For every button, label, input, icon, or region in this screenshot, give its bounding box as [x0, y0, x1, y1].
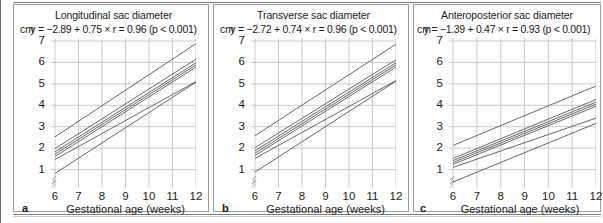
panel-c-ytick-4: 4: [427, 98, 443, 110]
panel-a-svg: [51, 38, 196, 188]
panel-a: Longitudinal sac diameter cm y = −2.89 +…: [13, 4, 214, 214]
panel-a-plot-area: [51, 38, 196, 188]
panel-b-xtick-10: 10: [341, 190, 357, 202]
panel-c-plot-area: [449, 38, 596, 188]
panel-c-ytick-7: 7: [427, 34, 443, 46]
panel-a-xtick-6: 6: [47, 190, 63, 202]
figure-left-edge-rule: [0, 0, 1, 223]
panel-a-ytick-7: 7: [29, 34, 45, 46]
panel-a-xtick-7: 7: [71, 190, 87, 202]
panel-a-xtick-12: 12: [188, 190, 204, 202]
panel-c-ytick-2: 2: [427, 141, 443, 153]
panel-c-xtick-11: 11: [564, 190, 580, 202]
panel-b-xtick-12: 12: [388, 190, 404, 202]
panel-b-xaxis-title: Gestational age (weeks): [237, 203, 414, 215]
panel-b-title: Transverse sac diameter: [213, 9, 414, 21]
panel-c-xtick-10: 10: [540, 190, 556, 202]
panel-a-ytick-1: 1: [29, 163, 45, 175]
panel-c-xtick-12: 12: [588, 190, 603, 202]
panel-b-xtick-8: 8: [294, 190, 310, 202]
panel-c-xtick-7: 7: [469, 190, 485, 202]
panel-b-letter: b: [222, 202, 229, 214]
panel-b-ytick-4: 4: [229, 98, 245, 110]
panel-c-xaxis-title: Gestational age (weeks): [435, 203, 603, 215]
panel-c-svg: [449, 38, 596, 188]
panel-c-letter: c: [420, 202, 426, 214]
panel-c-title: Anteroposterior sac diameter: [413, 9, 601, 21]
panel-a-ytick-2: 2: [29, 141, 45, 153]
panel-a-ytick-6: 6: [29, 55, 45, 67]
panel-a-ytick-4: 4: [29, 98, 45, 110]
figure-top-rule: [13, 2, 601, 3]
panel-b-ytick-5: 5: [229, 77, 245, 89]
panel-b-xtick-9: 9: [318, 190, 334, 202]
panel-b-xtick-11: 11: [365, 190, 381, 202]
panel-b-xtick-7: 7: [271, 190, 287, 202]
panel-b: Transverse sac diameter cm y = −2.72 + 0…: [213, 4, 414, 214]
panel-a-xtick-8: 8: [94, 190, 110, 202]
panel-a-xaxis-title: Gestational age (weeks): [37, 203, 214, 215]
panel-a-xtick-11: 11: [165, 190, 181, 202]
panel-a-title: Longitudinal sac diameter: [13, 9, 214, 21]
panel-b-ytick-2: 2: [229, 141, 245, 153]
panel-c-xtick-6: 6: [445, 190, 461, 202]
panel-a-letter: a: [22, 202, 28, 214]
panel-c-ytick-6: 6: [427, 55, 443, 67]
panel-a-ytick-3: 3: [29, 120, 45, 132]
panel-a-xtick-10: 10: [141, 190, 157, 202]
panel-b-svg: [251, 38, 396, 188]
panel-b-plot-area: [251, 38, 396, 188]
panel-b-ytick-7: 7: [229, 34, 245, 46]
panel-a-xtick-9: 9: [118, 190, 134, 202]
panel-c-xtick-9: 9: [517, 190, 533, 202]
panel-c-ytick-1: 1: [427, 163, 443, 175]
panel-a-ytick-5: 5: [29, 77, 45, 89]
panel-c-xtick-8: 8: [493, 190, 509, 202]
figure-container: Longitudinal sac diameter cm y = −2.89 +…: [0, 0, 603, 223]
panel-c: Anteroposterior sac diameter cm y = −1.3…: [413, 4, 603, 214]
figure-bottom-rule-secondary: [13, 216, 601, 217]
panel-b-ytick-3: 3: [229, 120, 245, 132]
panel-c-ytick-5: 5: [427, 77, 443, 89]
panel-c-ytick-3: 3: [427, 120, 443, 132]
panel-b-xtick-6: 6: [247, 190, 263, 202]
panel-b-ytick-6: 6: [229, 55, 245, 67]
panel-b-ytick-1: 1: [229, 163, 245, 175]
